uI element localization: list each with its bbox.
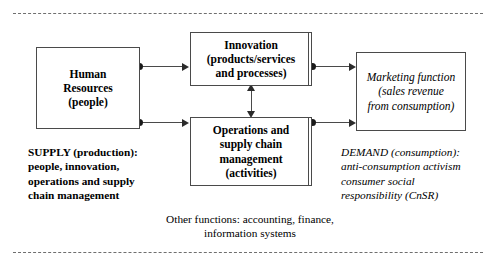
connector-innovation-to-marketing-line — [312, 66, 350, 67]
node-operations-supply-chain: Operations andsupply chainmanagement(act… — [190, 117, 312, 186]
arrow-innovation-to-marketing — [349, 63, 356, 71]
node-operations-supply-chain-label: Operations andsupply chainmanagement(act… — [191, 123, 311, 179]
arrow-hr-to-innovation — [182, 63, 189, 71]
node-marketing-function-label: Marketing function(sales revenuefrom con… — [357, 70, 465, 112]
diagram-canvas: HumanResources(people) Innovation(produc… — [0, 0, 499, 270]
annotation-demand: DEMAND (consumption):anti-consumption ac… — [341, 145, 496, 203]
arrow-hr-to-operations — [182, 119, 189, 127]
arrow-operations-to-marketing — [349, 119, 356, 127]
node-human-resources: HumanResources(people) — [36, 47, 140, 129]
frame-dashed-bottom — [13, 252, 483, 253]
frame-dashed-top — [13, 13, 483, 14]
node-marketing-function: Marketing function(sales revenuefrom con… — [356, 52, 466, 131]
node-innovation: Innovation(products/servicesand processe… — [190, 32, 312, 86]
node-innovation-label: Innovation(products/servicesand processe… — [191, 38, 311, 80]
annotation-other-functions: Other functions: accounting, finance,inf… — [125, 212, 375, 241]
node-human-resources-label: HumanResources(people) — [37, 67, 139, 109]
annotation-supply: SUPPLY (production):people, innovation,o… — [28, 145, 188, 203]
connector-operations-to-marketing-line — [312, 122, 350, 123]
connector-hr-to-operations-line — [140, 122, 183, 123]
connector-hr-to-innovation-line — [140, 66, 183, 67]
